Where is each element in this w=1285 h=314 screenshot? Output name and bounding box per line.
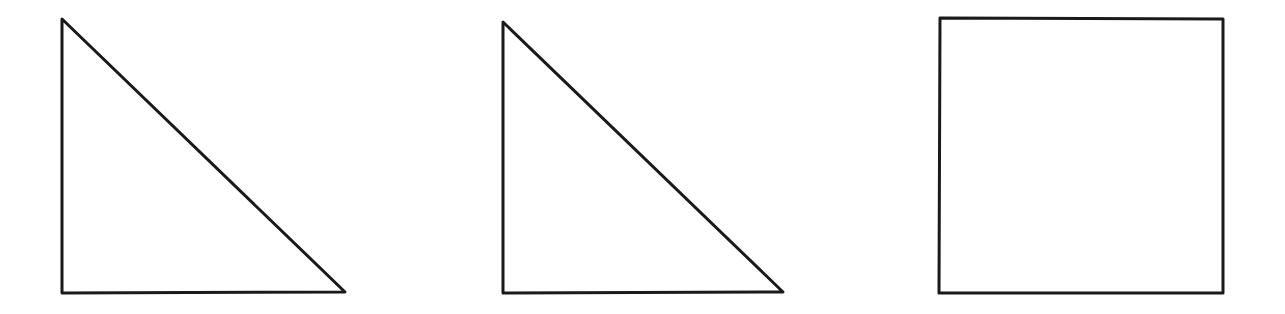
square	[939, 18, 1223, 293]
right-triangle-1	[62, 19, 345, 293]
shapes-diagram	[0, 0, 1285, 314]
right-triangle-2	[503, 22, 783, 293]
